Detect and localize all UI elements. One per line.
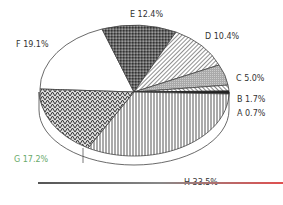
label-f: F 19.1% bbox=[16, 40, 49, 49]
label-b: B 1.7% bbox=[237, 95, 265, 104]
label-g: G 17.2% bbox=[14, 155, 48, 164]
label-c: C 5.0% bbox=[236, 74, 264, 83]
pie-slices bbox=[40, 25, 229, 156]
label-d: D 10.4% bbox=[205, 32, 239, 41]
label-a: A 0.7% bbox=[237, 109, 265, 118]
baseline-rule bbox=[38, 182, 283, 184]
label-e: E 12.4% bbox=[130, 10, 163, 19]
